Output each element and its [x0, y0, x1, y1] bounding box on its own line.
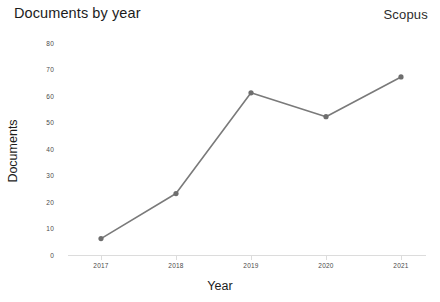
data-point-marker[interactable] [98, 236, 103, 241]
data-point-marker[interactable] [248, 90, 253, 95]
plot-area: 01020304050607080 20172018201920202021 [0, 0, 440, 302]
data-point-marker[interactable] [323, 114, 328, 119]
data-point-marker[interactable] [398, 74, 403, 79]
data-series-layer [0, 0, 440, 302]
series-line-documents [101, 77, 401, 239]
documents-by-year-chart: Documents by year Scopus Documents Year … [0, 0, 440, 302]
data-point-marker[interactable] [173, 191, 178, 196]
